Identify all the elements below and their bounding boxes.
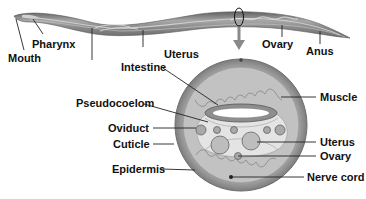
label-epidermis: Epidermis — [112, 163, 165, 175]
cross-section — [175, 58, 307, 191]
label-nerve-cord: Nerve cord — [307, 171, 364, 183]
section-arrow — [233, 27, 245, 50]
label-pharynx: Pharynx — [32, 38, 75, 50]
uterus-right — [242, 132, 260, 150]
label-anus: Anus — [306, 45, 334, 57]
label-intestine: Intestine — [121, 61, 166, 73]
label-mouth: Mouth — [8, 52, 41, 64]
roundworm-diagram: Pharynx Mouth Uterus Intestine Ovary Anu… — [0, 0, 366, 199]
oviduct — [196, 125, 206, 135]
label-uterus-cross: Uterus — [320, 136, 355, 148]
label-muscle: Muscle — [320, 91, 357, 103]
label-cuticle: Cuticle — [113, 138, 150, 150]
label-uterus-top: Uterus — [164, 48, 199, 60]
intestine — [205, 104, 277, 122]
label-pseudocoelom: Pseudocoelom — [76, 97, 154, 109]
label-ovary-cross: Ovary — [320, 150, 351, 162]
worm-body — [14, 8, 350, 38]
uterus-left — [211, 136, 229, 154]
label-ovary-top: Ovary — [262, 38, 293, 50]
label-oviduct: Oviduct — [108, 122, 149, 134]
roundworm-illustration — [0, 0, 366, 199]
